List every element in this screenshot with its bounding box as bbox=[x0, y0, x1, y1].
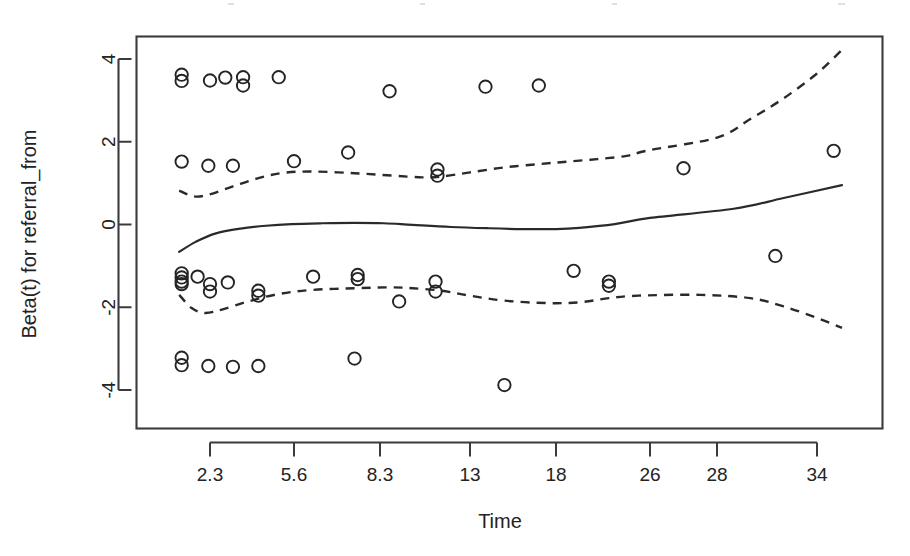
x-tick-label: 26 bbox=[639, 464, 660, 485]
cox-zph-plot: Beta(t) for referral_from Time 420-2-4 2… bbox=[0, 0, 910, 556]
chart-figure: Beta(t) for referral_from Time 420-2-4 2… bbox=[0, 0, 910, 556]
x-tick-label: 13 bbox=[459, 464, 480, 485]
x-tick-label: 2.3 bbox=[197, 464, 223, 485]
y-tick-label: -2 bbox=[98, 299, 119, 316]
x-tick-label: 5.6 bbox=[281, 464, 307, 485]
x-tick-label: 18 bbox=[545, 464, 566, 485]
y-tick-label: 0 bbox=[98, 219, 119, 230]
y-axis-title: Beta(t) for referral_from bbox=[18, 130, 41, 339]
x-tick-label: 28 bbox=[706, 464, 727, 485]
x-axis-title: Time bbox=[478, 510, 522, 532]
x-tick-label: 34 bbox=[806, 464, 828, 485]
x-tick-label: 8.3 bbox=[367, 464, 393, 485]
y-tick-label: 2 bbox=[98, 136, 119, 147]
y-tick-label: 4 bbox=[98, 53, 119, 64]
y-tick-label: -4 bbox=[98, 381, 119, 398]
